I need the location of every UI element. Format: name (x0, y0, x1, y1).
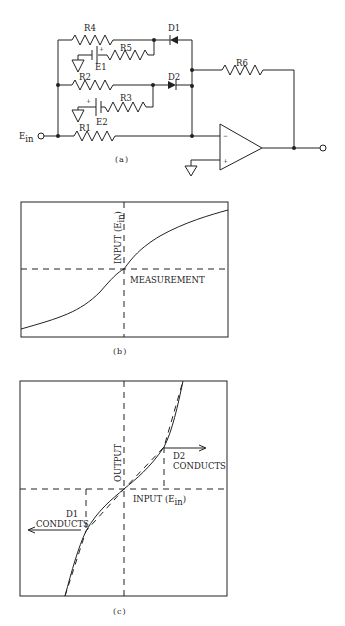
chart-b: INPUT (Ein) MEASUREMENT (b) (21, 202, 228, 356)
figure-canvas: R4 D1 R5 + E1 R6 R2 D2 R3 + E2 R1 Ein − … (0, 0, 345, 626)
label-r6: R6 (236, 58, 248, 68)
chart-c-y-label: OUTPUT (113, 443, 123, 482)
label-r1: R1 (79, 123, 91, 133)
circuit-diagram: R4 D1 R5 + E1 R6 R2 D2 R3 + E2 R1 Ein − … (19, 23, 326, 176)
input-terminal-icon (38, 133, 44, 139)
label-e2: E2 (96, 117, 108, 127)
output-terminal-icon (320, 145, 326, 151)
caption-c: (c) (113, 607, 127, 616)
label-e1-plus: + (99, 45, 104, 52)
junction-node (190, 68, 194, 72)
label-e2-plus: + (86, 97, 91, 104)
junction-node (56, 83, 60, 87)
d2-label-line1: D2 (173, 451, 185, 461)
junction-node (56, 134, 60, 138)
diode-d2-icon (168, 81, 176, 89)
label-ein: Ein (19, 131, 34, 144)
junction-node (152, 38, 156, 42)
chart-b-point-label: MEASUREMENT (130, 275, 205, 285)
opamp-minus-label: − (223, 132, 228, 139)
label-d2: D2 (168, 72, 180, 82)
d1-label-line2: CONDUCTS (36, 519, 89, 529)
ground-e1-icon (72, 60, 84, 72)
ground-e2-icon (72, 110, 84, 122)
label-e1: E1 (95, 62, 107, 72)
diode-d1-icon (170, 36, 178, 44)
label-r4: R4 (84, 23, 96, 33)
label-r2: R2 (79, 72, 91, 82)
chart-c-x-label: INPUT (Ein) (133, 494, 186, 507)
junction-node (190, 134, 194, 138)
opamp-plus-label: + (223, 157, 228, 164)
caption-b: (b) (113, 347, 127, 356)
resistor-r4 (58, 35, 168, 45)
d1-label-line1: D1 (66, 509, 78, 519)
junction-node (190, 84, 194, 88)
chart-c: OUTPUT INPUT (Ein) D2 CONDUCTS D1 CONDUC… (20, 381, 227, 616)
d2-label-line2: CONDUCTS (173, 461, 226, 471)
label-r5: R5 (120, 43, 132, 53)
label-r3: R3 (120, 93, 132, 103)
ground-opamp-icon (185, 166, 197, 176)
caption-a: (a) (115, 155, 129, 164)
junction-node (151, 83, 155, 87)
label-d1: D1 (168, 23, 180, 33)
junction-node (292, 146, 296, 150)
